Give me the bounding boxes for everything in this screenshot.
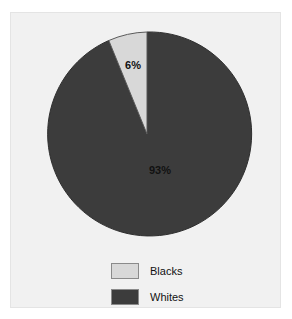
pie-slice-whites[interactable] xyxy=(48,32,252,236)
legend-swatch-blacks xyxy=(111,263,139,279)
pie-slice-label-blacks: 6% xyxy=(125,59,141,71)
legend-item-whites[interactable]: Whites xyxy=(111,284,231,310)
legend-item-blacks[interactable]: Blacks xyxy=(111,258,231,284)
pie-slice-label-whites: 93% xyxy=(149,164,171,176)
legend-label-whites: Whites xyxy=(150,292,184,303)
legend-label-blacks: Blacks xyxy=(150,266,182,277)
legend-swatch-whites xyxy=(111,289,139,305)
pie-chart-figure: 6% 93% Blacks Whites xyxy=(0,0,292,319)
chart-legend: Blacks Whites xyxy=(111,258,231,310)
